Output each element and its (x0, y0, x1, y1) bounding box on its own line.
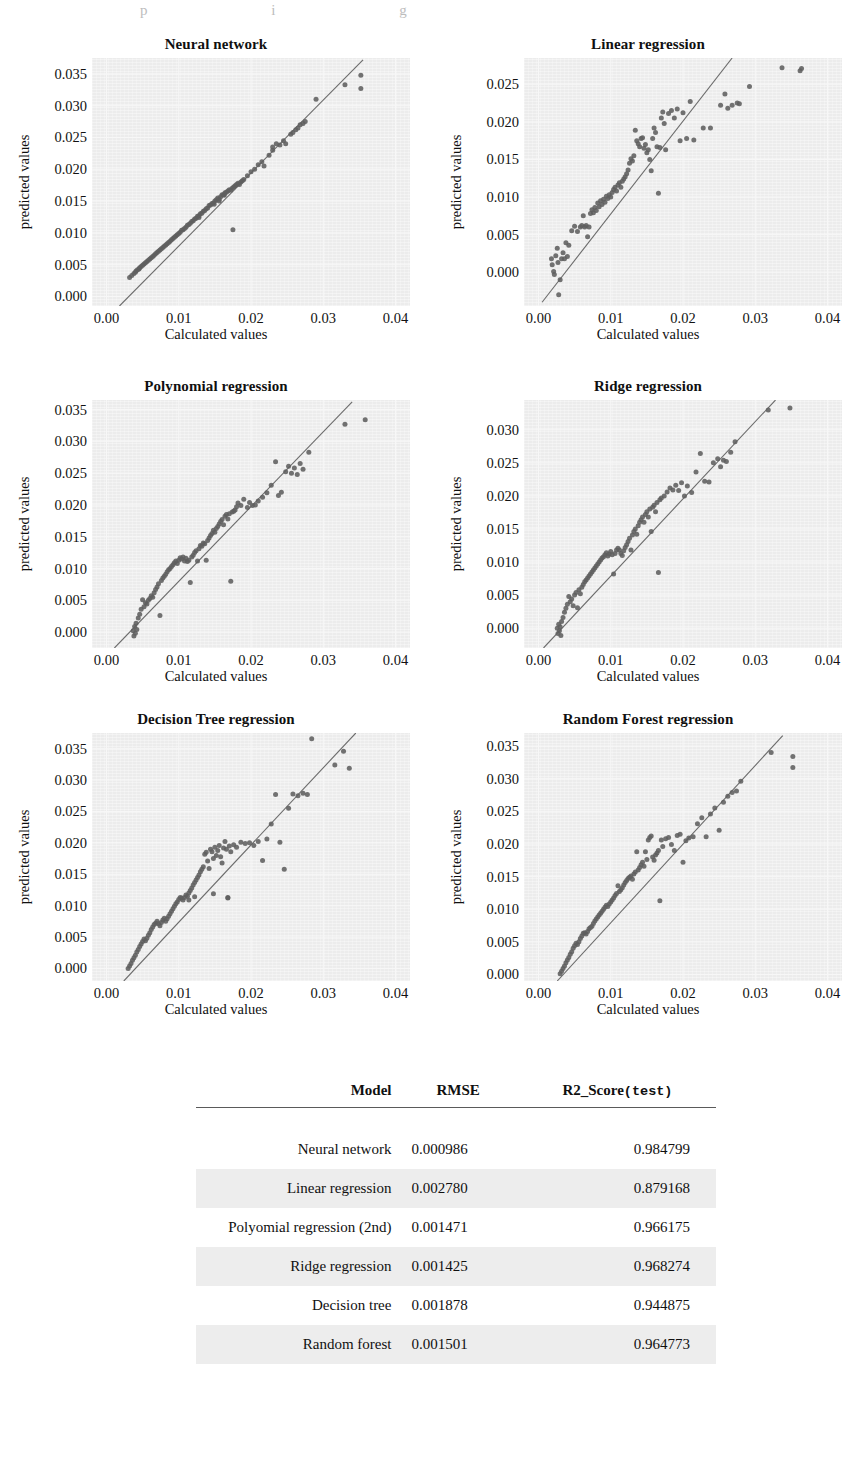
scatter-point (305, 792, 310, 797)
scatter-panel-grid: Neural network0.0000.0050.0100.0150.0200… (0, 0, 864, 1040)
scatter-point (259, 159, 264, 164)
header-rmse: RMSE (397, 1078, 518, 1108)
scatter-point (644, 857, 649, 862)
scatter-point (341, 749, 346, 754)
scatter-point (634, 532, 639, 537)
scatter-point (640, 135, 645, 140)
scatter-point (558, 277, 563, 282)
scatter-point (569, 228, 574, 233)
identity-fit-line (124, 733, 356, 981)
y-axis-tick-label: 0.020 (54, 496, 87, 513)
plot-canvas (524, 58, 842, 306)
scatter-point (238, 503, 243, 508)
scatter-point (289, 471, 294, 476)
scatter-point (724, 459, 729, 464)
metrics-table-block: Model RMSE R2_Score(test) Neural network… (196, 1078, 716, 1364)
scatter-point (614, 189, 619, 194)
cell-rmse: 0.002780 (397, 1169, 518, 1208)
scatter-point (221, 522, 226, 527)
y-axis-tick-label: 0.005 (486, 587, 519, 604)
scatter-point (669, 842, 674, 847)
scatter-point (725, 106, 730, 111)
cell-rmse: 0.001471 (397, 1208, 518, 1247)
scatter-point (204, 850, 209, 855)
scatter-point (662, 121, 667, 126)
y-axis-tick-label: 0.030 (486, 421, 519, 438)
scatter-point (678, 832, 683, 837)
scatter-point (212, 202, 217, 207)
plot-area: 0.0000.0050.0100.0150.0200.0250.0300.000… (524, 400, 842, 648)
scatter-point (558, 633, 563, 638)
scatter-point (691, 834, 696, 839)
scatter-point (201, 864, 206, 869)
header-model: Model (196, 1078, 397, 1108)
y-axis-tick-label: 0.005 (54, 256, 87, 273)
scatter-point (264, 837, 269, 842)
scatter-point (222, 839, 227, 844)
scatter-point (552, 272, 557, 277)
scatter-point (273, 459, 278, 464)
x-axis-tick-label: 0.01 (598, 652, 623, 669)
scatter-point (712, 806, 717, 811)
scatter-point (715, 456, 720, 461)
scatter-point (725, 794, 730, 799)
y-axis-tick-label: 0.030 (486, 770, 519, 787)
scatter-point (653, 130, 658, 135)
scatter-point (681, 860, 686, 865)
plot-area: 0.0000.0050.0100.0150.0200.0250.0300.035… (92, 58, 410, 306)
table-row: Random forest0.0015010.964773 (196, 1325, 716, 1364)
y-axis-tick-label: 0.015 (486, 520, 519, 537)
metrics-table-body: Neural network0.0009860.984799Linear reg… (196, 1130, 716, 1364)
cell-r2: 0.879168 (519, 1169, 716, 1208)
plot-area: 0.0000.0050.0100.0150.0200.0250.0300.035… (92, 733, 410, 981)
scatter-point (214, 853, 219, 858)
scatter-point (649, 529, 654, 534)
scatter-points (126, 736, 352, 971)
scatter-point (657, 145, 662, 150)
x-axis-tick-label: 0.03 (743, 652, 768, 669)
scatter-point (660, 110, 665, 115)
scatter-point (679, 480, 684, 485)
scatter-point (267, 153, 272, 158)
scatter-point (251, 843, 256, 848)
scatter-point (628, 548, 633, 553)
y-axis-tick-label: 0.000 (54, 288, 87, 305)
x-axis-tick-label: 0.02 (670, 652, 695, 669)
scatter-point (620, 553, 625, 558)
x-axis-tick-label: 0.01 (166, 652, 191, 669)
scatter-point (309, 736, 314, 741)
y-axis-tick-label: 0.025 (54, 129, 87, 146)
y-axis-label: predicted values (16, 810, 33, 905)
scatter-point (694, 470, 699, 475)
metrics-table: Model RMSE R2_Score(test) Neural network… (196, 1078, 716, 1364)
plot-area: 0.0000.0050.0100.0150.0200.0250.0300.035… (92, 400, 410, 648)
scatter-point (766, 407, 771, 412)
scatter-point (225, 895, 230, 900)
scatter-point (578, 591, 583, 596)
scatter-point (630, 877, 635, 882)
scatter-points (127, 73, 363, 280)
scatter-point (363, 417, 368, 422)
scatter-point (347, 766, 352, 771)
x-axis-tick-label: 0.00 (526, 985, 551, 1002)
scatter-point (633, 128, 638, 133)
cell-r2: 0.968274 (519, 1247, 716, 1286)
y-axis-tick-label: 0.020 (486, 835, 519, 852)
table-row: Linear regression0.0027800.879168 (196, 1169, 716, 1208)
y-axis-tick-label: 0.025 (54, 803, 87, 820)
x-axis-tick-label: 0.02 (238, 310, 263, 327)
y-axis-tick-label: 0.020 (486, 487, 519, 504)
panel-title: Decision Tree regression (0, 711, 432, 728)
scatter-point (637, 144, 642, 149)
scatter-point (663, 147, 668, 152)
cell-r2: 0.964773 (519, 1325, 716, 1364)
y-axis-tick-label: 0.020 (54, 834, 87, 851)
header-r2-score: R2_Score(test) (519, 1078, 716, 1108)
scatter-point (659, 116, 664, 121)
cell-rmse: 0.001425 (397, 1247, 518, 1286)
scatter-point (134, 621, 139, 626)
scatter-point (585, 234, 590, 239)
scatter-point (306, 450, 311, 455)
scatter-point (698, 451, 703, 456)
y-axis-tick-label: 0.035 (54, 401, 87, 418)
